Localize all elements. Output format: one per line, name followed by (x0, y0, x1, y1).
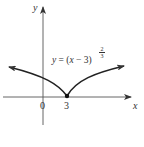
equation-rest: − 3) (74, 55, 92, 65)
equation-label: y = (x − 3) 2 3 (52, 55, 92, 65)
graph (0, 0, 144, 147)
tick-label-3: 3 (64, 101, 69, 111)
exponent-denominator: 3 (99, 53, 105, 59)
curve-left-branch (9, 67, 67, 96)
origin-label: 0 (40, 101, 45, 111)
y-axis-label: y (33, 3, 37, 13)
curve-right-branch (67, 66, 124, 96)
equation-exponent: 2 3 (99, 46, 105, 59)
equation-eq: = ( (56, 55, 69, 65)
cusp-point (65, 94, 69, 98)
x-axis-label: x (133, 101, 137, 111)
exponent-numerator: 2 (99, 46, 105, 53)
